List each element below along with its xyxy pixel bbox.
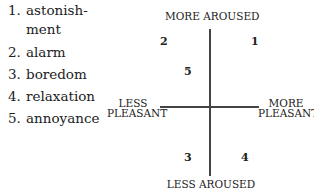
list-label: astonish- [26, 1, 88, 19]
right-axis-label-line2: PLEASANT [258, 108, 314, 119]
list-number: 2. [8, 43, 21, 61]
list-label: annoyance [26, 109, 100, 127]
point-1: 1 [251, 35, 259, 48]
list-label-continued: ment [26, 20, 61, 38]
list-number: 4. [8, 87, 21, 105]
bottom-axis-label: LESS AROUSED [165, 179, 257, 190]
point-3: 3 [184, 151, 192, 164]
left-axis-label-line2: PLEASANT [107, 108, 159, 119]
list-number: 1. [8, 1, 21, 19]
top-axis-label: MORE AROUSED [165, 11, 257, 22]
list-label: alarm [26, 43, 66, 61]
list-label: boredom [26, 65, 87, 83]
point-5: 5 [184, 65, 192, 78]
list-number: 5. [8, 109, 21, 127]
point-2: 2 [160, 35, 168, 48]
vertical-arousal-axis [209, 29, 211, 176]
list-label: relaxation [26, 87, 95, 105]
list-number: 3. [8, 65, 21, 83]
point-4: 4 [241, 151, 249, 164]
horizontal-pleasantness-axis [160, 106, 259, 108]
